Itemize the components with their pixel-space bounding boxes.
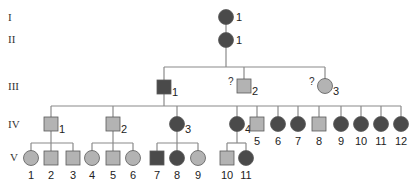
unaffected-male-square-icon	[220, 151, 234, 165]
individual-iii-3: 3?	[309, 76, 339, 97]
unaffected-female-circle-icon	[24, 151, 39, 166]
affected-male-square-icon	[150, 151, 164, 165]
individual-v-9: 9	[191, 151, 206, 182]
individual-v-2: 2	[44, 151, 58, 181]
individual-number: 7	[295, 135, 301, 147]
individual-v-10: 10	[220, 151, 234, 181]
generation-label-i: I	[8, 11, 12, 23]
individual-iv-2: 2	[106, 117, 127, 135]
uncertain-status-mark: ?	[309, 76, 315, 87]
individual-v-3: 3	[66, 151, 80, 181]
generation-labels: IIIIIIIVV	[8, 11, 20, 163]
affected-male-square-icon	[157, 80, 171, 94]
unaffected-female-circle-icon	[85, 151, 100, 166]
unaffected-male-square-icon	[312, 117, 326, 131]
individual-number: 9	[195, 169, 201, 181]
individual-iv-5: 5	[250, 117, 264, 147]
unaffected-male-square-icon	[250, 117, 264, 131]
unaffected-male-square-icon	[106, 117, 120, 131]
individual-number: 6	[130, 169, 136, 181]
individual-iv-1: 1	[44, 117, 65, 135]
individual-iv-11: 11	[374, 117, 389, 148]
affected-female-circle-icon	[354, 117, 369, 132]
individual-number: 8	[174, 169, 180, 181]
individual-number: 11	[375, 135, 386, 147]
unaffected-female-circle-icon	[191, 151, 206, 166]
generation-label-iv: IV	[8, 118, 20, 130]
individual-v-4: 4	[85, 151, 100, 182]
individual-iv-9: 9	[334, 117, 349, 148]
individual-number: 1	[236, 34, 242, 46]
pedigree-chart: IIIIIIIVV 1112?3?12345678910111212345678…	[0, 0, 418, 192]
generation-label-iii: III	[8, 80, 19, 92]
individuals: 1112?3?1234567891011121234567891011	[24, 10, 409, 182]
individual-v-7: 7	[150, 151, 164, 181]
unaffected-male-square-icon	[44, 117, 58, 131]
unaffected-female-circle-icon	[126, 151, 141, 166]
individual-iv-3: 3	[170, 117, 192, 136]
individual-number: 5	[110, 169, 116, 181]
individual-number: 1	[236, 11, 242, 23]
uncertain-status-mark: ?	[228, 76, 234, 87]
individual-iii-2: 2?	[228, 76, 258, 97]
individual-number: 10	[221, 169, 233, 181]
individual-number: 3	[333, 85, 339, 97]
individual-v-6: 6	[126, 151, 141, 182]
individual-number: 10	[355, 135, 367, 147]
individual-number: 7	[154, 169, 160, 181]
unaffected-female-circle-icon	[318, 79, 333, 94]
individual-number: 2	[252, 85, 258, 97]
individual-number: 9	[338, 135, 344, 147]
individual-number: 11	[240, 169, 251, 181]
affected-female-circle-icon	[239, 151, 254, 166]
affected-female-circle-icon	[170, 151, 185, 166]
unaffected-male-square-icon	[106, 151, 120, 165]
individual-v-11: 11	[239, 151, 254, 182]
individual-iv-12: 12	[394, 117, 409, 148]
affected-female-circle-icon	[291, 117, 306, 132]
affected-female-circle-icon	[271, 117, 286, 132]
generation-label-ii: II	[8, 33, 16, 45]
individual-number: 1	[172, 86, 178, 98]
unaffected-male-square-icon	[44, 151, 58, 165]
affected-female-circle-icon	[230, 117, 245, 132]
individual-iv-6: 6	[271, 117, 286, 148]
affected-female-circle-icon	[170, 117, 185, 132]
individual-number: 6	[275, 135, 281, 147]
individual-iv-4: 4	[230, 117, 252, 136]
unaffected-male-square-icon	[237, 79, 251, 93]
individual-number: 8	[316, 135, 322, 147]
relationship-lines	[31, 24, 401, 151]
individual-number: 4	[89, 169, 95, 181]
individual-v-5: 5	[106, 151, 120, 181]
individual-number: 2	[48, 169, 54, 181]
individual-iv-7: 7	[291, 117, 306, 148]
affected-female-circle-icon	[219, 10, 234, 25]
individual-v-8: 8	[170, 151, 185, 182]
individual-number: 1	[59, 123, 65, 135]
individual-v-1: 1	[24, 151, 39, 182]
individual-iii-1: 1	[157, 80, 178, 98]
affected-female-circle-icon	[394, 117, 409, 132]
individual-number: 3	[185, 123, 191, 135]
individual-ii-1: 1	[219, 33, 243, 48]
individual-number: 2	[121, 123, 127, 135]
individual-number: 3	[70, 169, 76, 181]
unaffected-male-square-icon	[66, 151, 80, 165]
affected-female-circle-icon	[334, 117, 349, 132]
individual-iv-8: 8	[312, 117, 326, 147]
generation-label-v: V	[10, 151, 18, 163]
individual-iv-10: 10	[354, 117, 369, 148]
affected-female-circle-icon	[374, 117, 389, 132]
affected-female-circle-icon	[219, 33, 234, 48]
individual-number: 12	[395, 135, 407, 147]
individual-number: 1	[28, 169, 34, 181]
individual-i-1: 1	[219, 10, 243, 25]
individual-number: 5	[254, 135, 260, 147]
